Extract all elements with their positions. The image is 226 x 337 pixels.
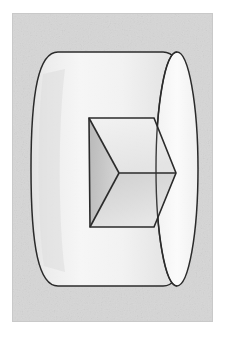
impossible-cylinder-figure — [13, 14, 212, 321]
figure-frame — [12, 13, 213, 322]
scan-grain-overlay — [13, 14, 212, 321]
page-root — [0, 0, 226, 337]
